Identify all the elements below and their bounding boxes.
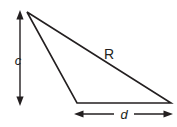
- figure-background: [0, 0, 177, 127]
- label-d: d: [120, 107, 128, 122]
- figure-canvas: c d R: [0, 0, 177, 127]
- geometry-figure: c d R: [0, 0, 177, 127]
- label-c: c: [15, 53, 22, 68]
- label-r: R: [104, 46, 114, 62]
